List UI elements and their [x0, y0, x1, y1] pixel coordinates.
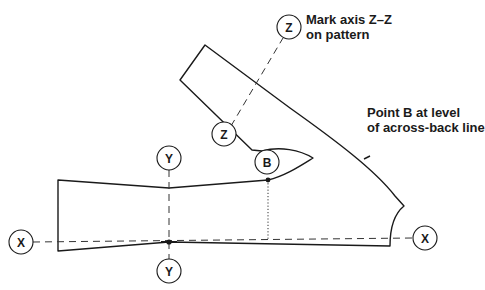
point-b-annotation-line2: of across-back line [367, 120, 485, 135]
marker-b-label: B [263, 156, 272, 170]
marker-z-top-label: Z [285, 21, 292, 35]
marker-z-bottom-label: Z [220, 128, 227, 142]
marker-x-left-label: X [17, 236, 25, 250]
point-b-annotation-line1: Point B at level [367, 105, 485, 120]
balance-notch [364, 156, 370, 159]
marker-x-left: X [9, 230, 33, 254]
marker-y-top: Y [157, 146, 181, 170]
point-b-annotation: Point B at level of across-back line [367, 105, 485, 135]
marker-z-top: Z [277, 15, 301, 39]
marker-y-bottom-label: Y [165, 265, 173, 279]
axis-z-annotation-line1: Mark axis Z–Z [306, 12, 392, 27]
marker-x-right: X [413, 226, 437, 250]
marker-y-bottom: Y [157, 259, 181, 283]
marker-x-right-label: X [421, 232, 429, 246]
axis-x-line [33, 238, 413, 242]
axis-z-line [231, 38, 283, 126]
marker-y-top-label: Y [165, 152, 173, 166]
marker-b: B [255, 150, 279, 174]
point-b-dot [266, 178, 271, 183]
marker-z-bottom: Z [212, 122, 236, 146]
axis-z-annotation-line2: on pattern [306, 27, 392, 42]
pattern-outline [58, 45, 404, 251]
axis-z-annotation: Mark axis Z–Z on pattern [306, 12, 392, 42]
